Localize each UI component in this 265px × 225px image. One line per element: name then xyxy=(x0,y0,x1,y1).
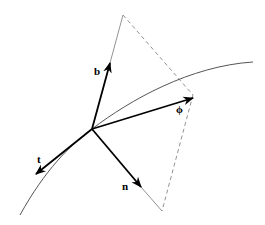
frenet-frame-diagram: b ϕ t n xyxy=(0,0,265,225)
plane-edge-top-dashed xyxy=(123,15,193,95)
space-curve xyxy=(20,62,253,215)
plane-edge-bottom-solid xyxy=(141,187,162,211)
label-n: n xyxy=(122,180,128,192)
label-b: b xyxy=(94,65,100,77)
vector-t-arrow xyxy=(36,129,92,174)
label-t: t xyxy=(37,153,41,165)
diagram-canvas: b ϕ t n xyxy=(0,0,265,225)
plane-edge-top-solid xyxy=(110,15,123,63)
vector-n-arrow xyxy=(92,129,141,187)
label-phi: ϕ xyxy=(176,103,183,115)
